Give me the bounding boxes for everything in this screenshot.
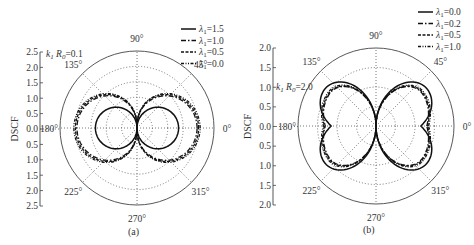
angle-label: 0° <box>223 124 232 134</box>
angle-labels: 0°45°90°135°180°225°270°315° <box>278 31 472 223</box>
angle-label: 180° <box>40 124 58 134</box>
r-tick-label: 1.5 <box>259 63 271 73</box>
angle-label: 180° <box>278 122 296 132</box>
angle-label: 315° <box>192 187 210 197</box>
legend-label: λ1=1.5 <box>198 24 224 36</box>
r-tick-label: 1.5 <box>259 181 271 191</box>
angle-label: 135° <box>303 57 321 67</box>
r-tick-label: 1.5 <box>26 78 38 88</box>
angle-label: 225° <box>64 187 82 197</box>
angle-label: 90° <box>130 34 144 44</box>
r-tick-label: 2.5 <box>26 201 38 211</box>
angle-label: 270° <box>128 214 146 224</box>
series-curve <box>322 85 431 167</box>
r-tick-label: 1.0 <box>259 83 271 93</box>
y-axis-title: DSCF <box>9 116 20 141</box>
r-tick-label: 1.0 <box>259 161 271 171</box>
r-tick-label: 1.0 <box>26 94 38 104</box>
polar-chart-a: 0°45°90°135°180°225°270°315°2.52.01.51.0… <box>9 24 231 238</box>
legend-label: λ1=1.0 <box>435 42 461 54</box>
polar-chart-b: 0°45°90°135°180°225°270°315°2.01.51.00.5… <box>242 7 471 236</box>
r-tick-label: 2.0 <box>259 200 271 210</box>
polar-figure: 0°45°90°135°180°225°270°315°2.52.01.51.0… <box>0 0 474 245</box>
angle-label: 225° <box>303 186 321 196</box>
legend-label: λ1=0.0 <box>435 7 461 19</box>
legend-label: λ1=0.5 <box>435 30 461 42</box>
angle-label: 315° <box>431 186 449 196</box>
r-tick-label: 0.5 <box>259 102 271 112</box>
r-tick-label: 0.5 <box>259 141 271 151</box>
r-tick-label: 0.5 <box>26 109 38 119</box>
series-curve <box>75 95 198 162</box>
y-axis-title: DSCF <box>242 114 253 139</box>
r-tick-label: 1.5 <box>26 171 38 181</box>
r-tick-label: 0.0 <box>26 124 38 134</box>
r-tick-label: 2.0 <box>259 43 271 53</box>
panel-label: (b) <box>363 224 375 236</box>
r-tick-label: 0.0 <box>259 122 271 132</box>
panel-label: (a) <box>128 226 139 238</box>
angle-label: 90° <box>369 31 383 41</box>
legend-label: λ1=1.0 <box>198 36 224 48</box>
r-tick-label: 2.0 <box>26 186 38 196</box>
angle-label: 270° <box>367 213 385 223</box>
angle-label: 135° <box>64 60 82 70</box>
r-tick-label: 2.0 <box>26 63 38 73</box>
r-tick-label: 0.5 <box>26 140 38 150</box>
legend-label: λ1=0.5 <box>198 47 224 59</box>
angle-label: 45° <box>434 57 448 67</box>
r-tick-label: 2.5 <box>26 47 38 57</box>
legend: λ1=0.0λ1=0.2λ1=0.5λ1=1.0 <box>418 7 461 54</box>
radial-axis: 2.52.01.51.00.50.00.51.01.52.02.5DSCF <box>9 47 60 211</box>
legend-label: λ1=0.2 <box>435 19 461 31</box>
angle-label: 0° <box>463 122 472 132</box>
legend: λ1=1.5λ1=1.0λ1=0.5λ1=0.0 <box>181 24 224 71</box>
r-tick-label: 1.0 <box>26 155 38 165</box>
parameter-annotation: k1 R0=2.0 <box>276 82 313 94</box>
